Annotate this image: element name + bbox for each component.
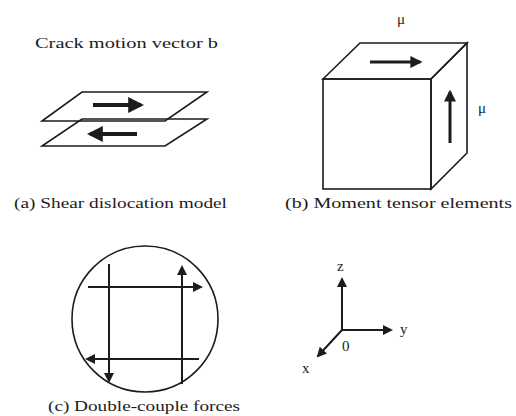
crack-motion-title: Crack motion vector b bbox=[35, 34, 218, 51]
cube-front-face bbox=[323, 79, 431, 189]
x-axis-label: x bbox=[302, 360, 310, 376]
panel-a-shear-dislocation: Crack motion vector b (a) Shear dislocat… bbox=[14, 34, 227, 212]
caption-c: (c) Double-couple forces bbox=[48, 397, 240, 415]
mu-side-label: μ bbox=[478, 100, 486, 116]
focal-circle bbox=[72, 246, 218, 392]
y-axis-label: y bbox=[400, 321, 408, 337]
caption-b: (b) Moment tensor elements bbox=[285, 194, 512, 212]
figure-canvas: Crack motion vector b (a) Shear dislocat… bbox=[0, 0, 516, 416]
panel-d-coordinate-axes: z y 0 x bbox=[302, 258, 408, 376]
origin-label: 0 bbox=[342, 338, 350, 354]
z-axis-label: z bbox=[337, 258, 344, 274]
x-axis-arrow-icon bbox=[318, 330, 342, 356]
mu-top-label: μ bbox=[397, 11, 405, 27]
panel-b-moment-tensor: μ μ (b) Moment tensor elements bbox=[285, 11, 512, 212]
panel-c-double-couple: (c) Double-couple forces bbox=[48, 246, 240, 415]
caption-a: (a) Shear dislocation model bbox=[14, 194, 227, 212]
